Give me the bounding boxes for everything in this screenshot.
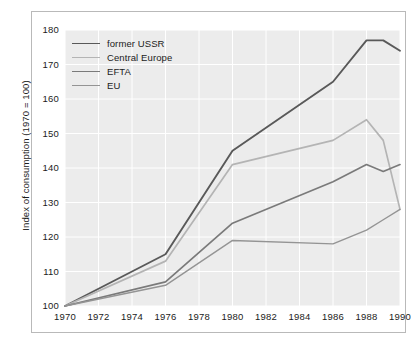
chart-figure: Index of consumption (1970 = 100) 180170… (0, 0, 420, 352)
y-axis-tick-label: 120 (31, 231, 59, 242)
legend-line-icon (72, 71, 100, 72)
y-axis-tick-label: 110 (31, 266, 59, 277)
legend-item: former USSR (72, 36, 202, 50)
chart-legend: former USSRCentral EuropeEFTAEU (72, 36, 202, 92)
legend-line-icon (72, 85, 100, 86)
y-axis-tick-labels: 180170160150140130120110100 (29, 30, 59, 306)
legend-item-label: former USSR (107, 38, 165, 49)
y-axis-tick-label: 130 (31, 197, 59, 208)
legend-item: EU (72, 78, 202, 92)
legend-item-label: EFTA (107, 66, 131, 77)
y-axis-tick-label: 180 (31, 24, 59, 35)
y-axis-tick-label: 150 (31, 128, 59, 139)
legend-item-label: Central Europe (107, 52, 172, 63)
legend-line-icon (72, 57, 100, 58)
y-axis-tick-label: 170 (31, 59, 59, 70)
y-axis-tick-label: 100 (31, 300, 59, 311)
y-axis-tick-label: 160 (31, 93, 59, 104)
x-axis-tick-labels: 1970197219741976197819801982198419861988… (65, 311, 400, 327)
series-line (65, 165, 400, 306)
series-line (65, 120, 400, 306)
legend-item: EFTA (72, 64, 202, 78)
legend-item-label: EU (107, 80, 120, 91)
x-axis-tick-label: 1990 (380, 311, 420, 322)
legend-item: Central Europe (72, 50, 202, 64)
legend-line-icon (72, 43, 100, 44)
y-axis-tick-label: 140 (31, 162, 59, 173)
